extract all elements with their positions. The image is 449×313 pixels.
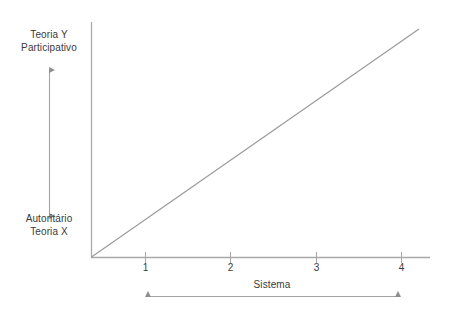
y-axis-high-label-line1: Teoria Y — [1, 28, 97, 41]
y-axis-low-label-line2: Teoria X — [1, 225, 97, 238]
x-tick-label-3: 3 — [307, 262, 327, 274]
data-line-series-1 — [92, 29, 420, 257]
y-axis-low-label-line1: Autoritário — [1, 212, 97, 225]
x-axis-title: Sistema — [224, 278, 320, 291]
x-tick-label-4: 4 — [392, 262, 412, 274]
x-tick-label-2: 2 — [221, 262, 241, 274]
y-axis-high-label: Teoria Y Participativo — [1, 28, 97, 54]
y-axis-low-label: Autoritário Teoria X — [1, 212, 97, 238]
chart-figure: Teoria Y Participativo Autoritário Teori… — [0, 0, 449, 313]
x-tick-label-1: 1 — [136, 262, 156, 274]
y-axis-high-label-line2: Participativo — [1, 41, 97, 54]
